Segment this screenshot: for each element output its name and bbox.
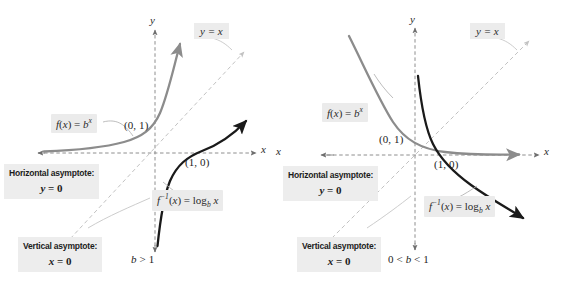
condition-value-left: 1 [149, 253, 155, 265]
x-axis-label-right: x [544, 145, 549, 158]
identity-line-label-right: y = x [470, 23, 505, 39]
horizontal-asymptote-val-right: = 0 [327, 184, 342, 196]
panel-exponential-decay: y x x y = x f(x) = bx f−1(x) = logb x (0… [281, 0, 563, 283]
condition-base-left: b [131, 253, 137, 265]
vertical-asymptote-title-right: Vertical asymptote: [302, 241, 376, 251]
x-axis-label-right-left-end: x [276, 145, 281, 158]
vertical-asymptote-var-left: x [49, 255, 55, 267]
leader-line-vertical-asymptote-left [88, 198, 150, 228]
horizontal-asymptote-label-left: Horizontal asymptote: y = 0 [4, 164, 99, 199]
point-label-0-1-right: (0, 1) [379, 133, 403, 146]
vertical-asymptote-label-right: Vertical asymptote: x = 0 [297, 237, 381, 272]
horizontal-asymptote-var-left: y [40, 182, 45, 194]
condition-label-right: 0 < b < 1 [388, 253, 429, 266]
point-label-1-0-right: (1, 0) [434, 158, 458, 171]
horizontal-asymptote-label-right: Horizontal asymptote: y = 0 [283, 166, 378, 201]
horizontal-asymptote-title-right: Horizontal asymptote: [288, 170, 373, 180]
logarithmic-function-label-right: f−1(x) = logb x [424, 196, 495, 217]
condition-lower-right: 0 < [388, 253, 403, 265]
leader-line-identity-left [212, 38, 232, 50]
condition-base-right: b [406, 253, 412, 265]
point-label-1-0-left: (1, 0) [185, 156, 209, 169]
horizontal-asymptote-title-left: Horizontal asymptote: [9, 168, 94, 178]
exponent-x-left: x [89, 116, 92, 125]
log-base-right: b [479, 206, 483, 215]
panel-exponential-growth: y x y = x f(x) = bx f−1(x) = logb x (0, … [0, 0, 282, 283]
point-label-0-1-left: (0, 1) [124, 119, 148, 132]
y-axis-label-left: y [150, 14, 155, 27]
vertical-asymptote-val-left: = 0 [57, 255, 72, 267]
logarithmic-curve-left [158, 121, 247, 246]
vertical-asymptote-title-left: Vertical asymptote: [23, 241, 97, 251]
exponential-function-label-right: f(x) = bx [322, 103, 368, 122]
exponent-x-right: x [360, 105, 363, 114]
vertical-asymptote-val-right: = 0 [336, 255, 351, 267]
exponential-function-label-left: f(x) = bx [51, 114, 97, 133]
condition-relation-left: > [139, 253, 145, 265]
y-axis-label-right: y [410, 13, 415, 26]
condition-upper-right: < 1 [414, 253, 429, 265]
vertical-asymptote-label-left: Vertical asymptote: x = 0 [18, 237, 102, 272]
exponential-curve-right [349, 36, 519, 155]
x-axis-label-left: x [261, 143, 266, 156]
vertical-asymptote-var-right: x [328, 255, 334, 267]
horizontal-asymptote-val-left: = 0 [48, 182, 63, 194]
identity-line-label-left: y = x [194, 23, 229, 39]
horizontal-asymptote-var-right: y [319, 184, 324, 196]
leader-line-identity-right [497, 38, 517, 50]
log-base-left: b [207, 200, 211, 209]
logarithmic-function-label-left: f−1(x) = logb x [152, 190, 223, 211]
exponential-curve-left [44, 44, 180, 152]
condition-label-left: b > 1 [131, 253, 154, 266]
